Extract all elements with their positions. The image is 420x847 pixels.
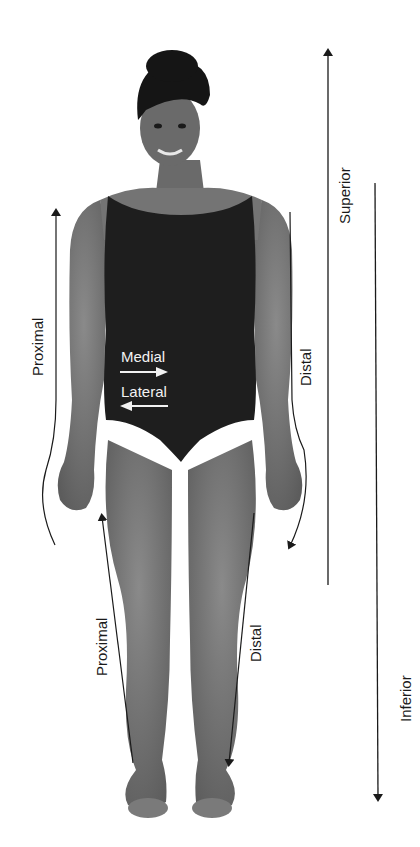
proximal-arm-arrow [43, 212, 56, 545]
proximal-leg-label: Proximal [94, 618, 109, 676]
anatomical-figure [0, 0, 420, 847]
right-leg [188, 440, 256, 808]
human-figure [58, 50, 303, 818]
left-eye [154, 124, 162, 129]
right-foot [192, 798, 232, 818]
proximal-arm-label: Proximal [30, 318, 45, 376]
hair-bun [146, 50, 198, 82]
distal-arm-label: Distal [298, 348, 313, 386]
distal-leg-label: Distal [248, 624, 263, 662]
superior-label: Superior [337, 167, 352, 224]
right-arm [250, 200, 302, 510]
right-eye [178, 124, 186, 129]
left-foot [128, 798, 168, 818]
left-arm [58, 200, 110, 510]
leotard [104, 196, 256, 462]
lateral-label: Lateral [121, 384, 167, 399]
inferior-label: Inferior [398, 675, 413, 722]
inferior-arrow [375, 183, 378, 798]
medial-label: Medial [121, 349, 165, 364]
